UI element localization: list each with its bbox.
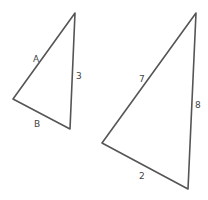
small-triangle-label-left: A xyxy=(33,54,40,64)
small-triangle xyxy=(13,13,75,129)
small-triangle-label-right: 3 xyxy=(76,71,82,81)
large-triangle-label-right: 8 xyxy=(195,100,201,110)
large-triangle-label-bottom: 2 xyxy=(139,171,145,181)
small-triangle-label-bottom: B xyxy=(34,119,40,129)
triangles-diagram: A 3 B 7 8 2 xyxy=(0,0,208,200)
large-triangle-label-left: 7 xyxy=(139,74,145,84)
large-triangle xyxy=(102,13,196,189)
